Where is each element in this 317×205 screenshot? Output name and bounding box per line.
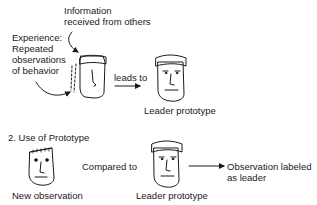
experience-arrow [36, 82, 70, 95]
info-arrow [69, 32, 78, 52]
diagram-drawings [0, 0, 317, 205]
forming-head-icon [71, 55, 106, 98]
leader-prototype-head-icon-2 [152, 141, 182, 187]
new-observation-head-icon [29, 148, 54, 185]
leader-prototype-head-icon-1 [156, 55, 186, 101]
